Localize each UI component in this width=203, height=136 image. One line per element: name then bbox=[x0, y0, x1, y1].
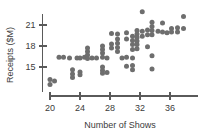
data-point bbox=[130, 67, 135, 72]
data-point bbox=[105, 70, 110, 75]
data-point bbox=[94, 55, 99, 60]
data-point bbox=[150, 67, 155, 72]
data-point bbox=[181, 26, 186, 31]
data-point bbox=[67, 55, 72, 60]
data-point bbox=[160, 30, 165, 35]
data-point bbox=[109, 31, 114, 36]
data-point bbox=[181, 14, 186, 19]
y-axis-title: Receipts ($M) bbox=[5, 27, 15, 83]
data-point bbox=[124, 64, 129, 69]
data-point bbox=[48, 77, 53, 82]
data-point bbox=[165, 30, 170, 35]
x-tick-label-24: 24 bbox=[75, 103, 85, 113]
data-point bbox=[130, 55, 135, 60]
data-point bbox=[124, 55, 129, 60]
data-point bbox=[140, 34, 145, 39]
data-point bbox=[78, 72, 83, 77]
data-point bbox=[175, 30, 180, 35]
data-point bbox=[169, 30, 174, 35]
data-point bbox=[100, 71, 105, 76]
data-point bbox=[57, 55, 62, 60]
x-tick-label-36: 36 bbox=[165, 103, 175, 113]
data-point bbox=[61, 55, 66, 60]
data-point bbox=[70, 75, 75, 80]
data-point bbox=[124, 37, 129, 42]
data-point bbox=[115, 32, 120, 37]
y-tick-label-18: 18 bbox=[25, 41, 35, 51]
data-point bbox=[100, 55, 105, 60]
data-point bbox=[150, 53, 155, 58]
data-point bbox=[130, 42, 135, 47]
y-tick-label-15: 15 bbox=[25, 62, 35, 72]
data-point bbox=[85, 56, 90, 61]
data-point bbox=[156, 29, 161, 34]
data-point bbox=[78, 55, 83, 60]
data-point bbox=[150, 32, 155, 37]
data-point bbox=[124, 30, 129, 35]
data-point bbox=[115, 49, 120, 54]
data-point bbox=[48, 82, 53, 87]
data-point bbox=[52, 79, 57, 84]
x-tick-label-32: 32 bbox=[135, 103, 145, 113]
x-axis-title: Number of Shows bbox=[84, 120, 156, 130]
x-tick-label-20: 20 bbox=[45, 103, 55, 113]
data-point bbox=[145, 27, 150, 32]
data-point bbox=[145, 32, 150, 37]
y-tick-label-21: 21 bbox=[25, 20, 35, 30]
data-point bbox=[90, 55, 95, 60]
data-point bbox=[160, 20, 165, 25]
data-point bbox=[135, 46, 140, 51]
x-tick-label-28: 28 bbox=[105, 103, 115, 113]
data-point bbox=[130, 47, 135, 52]
data-point bbox=[120, 55, 125, 60]
data-point bbox=[109, 46, 114, 51]
data-point bbox=[140, 29, 145, 34]
plot-area: 1518212024283236Number of ShowsReceipts … bbox=[0, 0, 203, 136]
data-point bbox=[105, 55, 110, 60]
data-point bbox=[140, 9, 145, 14]
data-point bbox=[145, 44, 150, 49]
scatter-chart: 1518212024283236Number of ShowsReceipts … bbox=[0, 0, 203, 136]
